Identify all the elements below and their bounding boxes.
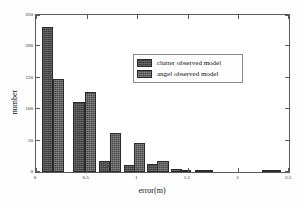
y-tick-5	[36, 15, 40, 16]
y-tick-label-2: 100	[20, 106, 33, 111]
bar-angel-6	[202, 170, 213, 172]
x-tick-label-1: 0.5	[82, 175, 88, 180]
y-tick-4	[36, 45, 40, 46]
x-tick-top-1	[87, 15, 88, 19]
x-tick-3	[188, 168, 189, 172]
y-tick-1	[36, 140, 40, 141]
x-tick-top-3	[188, 15, 189, 19]
x-tick-label-4: 2	[236, 175, 239, 180]
y-tick-right-5	[285, 15, 289, 16]
bar-clutter-1	[73, 102, 84, 172]
x-tick-label-2: 1	[135, 175, 138, 180]
y-tick-right-4	[285, 45, 289, 46]
bar-angel-4	[157, 161, 168, 172]
x-tick-top-4	[238, 15, 239, 19]
y-tick-label-3: 150	[20, 74, 33, 79]
y-tick-label-4: 200	[20, 43, 33, 48]
x-tick-label-3: 1.5	[184, 175, 190, 180]
x-tick-label-0: 0	[34, 175, 37, 180]
y-tick-right-3	[285, 77, 289, 78]
legend-swatch-angel	[137, 70, 152, 78]
bar-angel-0	[53, 79, 64, 172]
y-tick-label-5: 250	[20, 12, 33, 17]
bar-angel-1	[85, 92, 96, 172]
y-tick-0	[36, 171, 40, 172]
y-tick-right-1	[285, 140, 289, 141]
legend-box: clutter observed model angel observed mo…	[133, 54, 243, 83]
y-tick-3	[36, 77, 40, 78]
bar-angel-7	[270, 170, 281, 172]
plot-area: clutter observed model angel observed mo…	[35, 14, 290, 173]
bar-angel-2	[110, 133, 121, 172]
legend-item-clutter: clutter observed model	[137, 58, 239, 68]
x-tick-4	[238, 168, 239, 172]
legend-label-angel: angel observed model	[157, 70, 218, 78]
x-tick-1	[87, 168, 88, 172]
y-tick-right-0	[285, 171, 289, 172]
bar-clutter-0	[42, 27, 53, 172]
bar-angel-3	[134, 143, 145, 172]
y-tick-2	[36, 108, 40, 109]
y-tick-label-0: 0	[20, 169, 33, 174]
legend-swatch-clutter	[137, 59, 152, 67]
bar-angel-5	[180, 170, 191, 173]
x-tick-2	[137, 168, 138, 172]
legend-label-clutter: clutter observed model	[157, 59, 221, 67]
y-axis-label: number	[10, 89, 19, 113]
y-tick-right-2	[285, 108, 289, 109]
x-axis-label: error(m)	[0, 186, 304, 195]
y-tick-label-1: 50	[20, 137, 33, 142]
bars-layer	[36, 15, 289, 172]
bar-clutter-2	[99, 161, 110, 172]
legend-item-angel: angel observed model	[137, 69, 239, 79]
figure-canvas: number clutter observed model angel obse…	[0, 0, 304, 203]
x-tick-label-5: 2.5	[285, 175, 291, 180]
x-tick-top-2	[137, 15, 138, 19]
